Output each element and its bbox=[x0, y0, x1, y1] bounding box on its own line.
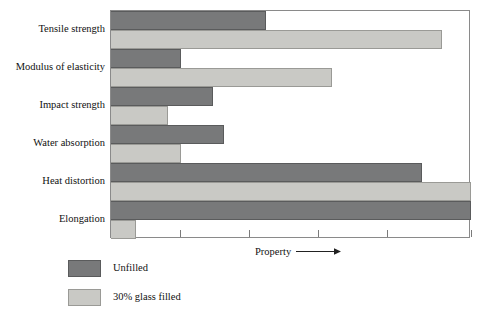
bar-tensile-strength-30-glass-filled bbox=[111, 30, 442, 49]
bar-impact-strength-30-glass-filled bbox=[111, 106, 168, 125]
x-tick-3 bbox=[318, 230, 319, 237]
bar-chart: Tensile strength Modulus of elasticity I… bbox=[0, 0, 487, 321]
bar-elongation-unfilled bbox=[111, 201, 471, 220]
category-label-modulus-of-elasticity: Modulus of elasticity bbox=[0, 61, 113, 72]
x-tick-2 bbox=[249, 230, 250, 237]
x-tick-1 bbox=[180, 230, 181, 237]
x-axis-title-label: Property bbox=[255, 246, 291, 257]
legend-label-unfilled: Unfilled bbox=[113, 262, 148, 274]
bar-modulus-of-elasticity-unfilled bbox=[111, 49, 181, 68]
legend-label-glass-filled: 30% glass filled bbox=[113, 291, 181, 303]
category-axis-labels: Tensile strength Modulus of elasticity I… bbox=[0, 10, 105, 238]
plot-area bbox=[110, 10, 470, 238]
legend-swatch-glass-filled bbox=[68, 289, 101, 306]
x-tick-4 bbox=[387, 230, 388, 237]
bars-layer bbox=[111, 11, 469, 237]
category-label-heat-distortion: Heat distortion bbox=[0, 175, 113, 186]
legend-item-glass-filled: 30% glass filled bbox=[68, 288, 181, 306]
category-label-impact-strength: Impact strength bbox=[0, 99, 113, 110]
x-axis-title: Property bbox=[255, 246, 342, 257]
category-label-tensile-strength: Tensile strength bbox=[0, 23, 113, 34]
category-label-elongation: Elongation bbox=[0, 213, 113, 224]
bar-water-absorption-unfilled bbox=[111, 125, 224, 144]
right-arrow-icon bbox=[296, 247, 342, 256]
bar-modulus-of-elasticity-30-glass-filled bbox=[111, 68, 332, 87]
bar-heat-distortion-unfilled bbox=[111, 163, 422, 182]
bar-water-absorption-30-glass-filled bbox=[111, 144, 181, 163]
bar-elongation-30-glass-filled bbox=[111, 220, 136, 239]
category-label-water-absorption: Water absorption bbox=[0, 137, 113, 148]
x-tick-5 bbox=[471, 230, 472, 237]
bar-tensile-strength-unfilled bbox=[111, 11, 266, 30]
bar-impact-strength-unfilled bbox=[111, 87, 213, 106]
legend: Unfilled 30% glass filled bbox=[68, 259, 181, 317]
legend-swatch-unfilled bbox=[68, 260, 101, 277]
legend-item-unfilled: Unfilled bbox=[68, 259, 181, 277]
bar-heat-distortion-30-glass-filled bbox=[111, 182, 471, 201]
